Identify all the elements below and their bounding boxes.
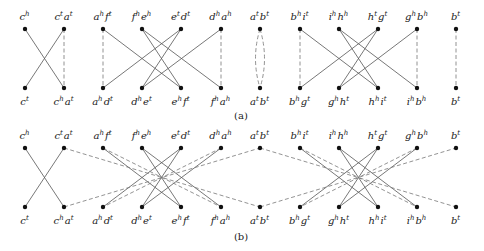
node-top (101, 146, 105, 150)
node-bottom (258, 205, 262, 209)
node-label-bottom: bt (451, 214, 461, 226)
node-top (140, 27, 144, 31)
node-label-top: ht gt (368, 10, 389, 22)
node-bottom (101, 205, 105, 209)
node-label-bottom: bt (451, 95, 461, 107)
node-top (298, 146, 302, 150)
node-label-bottom: ih bh (407, 214, 428, 226)
node-bottom (415, 86, 419, 90)
node-label-bottom: gh ht (328, 95, 350, 107)
node-label-top: dh ah (209, 129, 232, 141)
node-bottom (101, 86, 105, 90)
node-bottom (415, 205, 419, 209)
node-bottom (179, 86, 183, 90)
node-label-bottom: ah dt (92, 95, 114, 107)
node-label-bottom: fh ah (210, 95, 232, 107)
node-label-bottom: ah dt (92, 214, 114, 226)
node-label-bottom: ch at (54, 95, 75, 107)
node-top (219, 27, 223, 31)
node-label-top: gh bh (405, 129, 429, 141)
node-label-top: bh it (291, 10, 310, 22)
node-label-bottom: eh ft (172, 214, 191, 226)
node-bottom (454, 86, 458, 90)
node-label-top: ch (19, 129, 30, 141)
node-top (298, 27, 302, 31)
node-label-top: gh bh (405, 10, 429, 22)
node-label-top: ct at (54, 129, 73, 141)
node-bottom (337, 205, 341, 209)
node-top (101, 27, 105, 31)
node-label-top: bh it (291, 129, 310, 141)
node-top (23, 27, 27, 31)
node-label-bottom: fh ah (210, 214, 232, 226)
node-top (337, 27, 341, 31)
node-top (179, 27, 183, 31)
node-label-bottom: bh gt (289, 95, 311, 107)
node-label-top: dh ah (209, 10, 232, 22)
node-label-top: ht gt (368, 129, 389, 141)
node-label-bottom: ih bh (407, 95, 428, 107)
node-label-top: fh eh (131, 129, 153, 141)
node-bottom (454, 205, 458, 209)
node-bottom (140, 205, 144, 209)
panel-b: ch ct at ah ft fh eh et dt dh ah at bt b… (19, 129, 461, 226)
node-bottom (219, 86, 223, 90)
node-label-top: et dt (171, 129, 191, 141)
caption-b: (b) (234, 231, 248, 242)
node-bottom (376, 205, 380, 209)
curved-dashed-edge (256, 29, 261, 88)
node-label-top: ct at (54, 10, 73, 22)
node-label-top: at bt (250, 10, 270, 22)
node-label-bottom: hh it (369, 214, 388, 226)
node-bottom (140, 86, 144, 90)
node-bottom (23, 86, 27, 90)
edges (25, 148, 456, 207)
curved-dashed-edge (260, 29, 265, 88)
node-bottom (62, 86, 66, 90)
node-label-bottom: ch at (54, 214, 75, 226)
node-top (258, 146, 262, 150)
node-top (140, 146, 144, 150)
node-label-top: ih hh (329, 10, 350, 22)
node-bottom (337, 86, 341, 90)
panel-a: ch ct at ah ft fh eh et dt dh ah at bt b… (19, 10, 461, 107)
node-top (219, 146, 223, 150)
node-bottom (179, 205, 183, 209)
node-label-bottom: ct (20, 95, 29, 107)
node-label-bottom: bh gt (289, 214, 311, 226)
node-label-top: fh eh (131, 10, 153, 22)
node-bottom (62, 205, 66, 209)
node-label-top: ch (19, 10, 30, 22)
node-top (415, 27, 419, 31)
edges (25, 29, 456, 88)
node-label-top: ah ft (93, 129, 112, 141)
node-label-top: bt (451, 10, 461, 22)
node-label-top: at bt (250, 129, 270, 141)
node-label-bottom: gh ht (328, 214, 350, 226)
node-top (376, 27, 380, 31)
node-bottom (376, 86, 380, 90)
node-top (23, 146, 27, 150)
node-label-bottom: hh it (369, 95, 388, 107)
node-top (376, 146, 380, 150)
node-top (62, 146, 66, 150)
node-label-bottom: dh et (131, 214, 153, 226)
node-bottom (298, 205, 302, 209)
node-top (179, 146, 183, 150)
node-top (258, 27, 262, 31)
node-label-bottom: eh ft (172, 95, 191, 107)
node-label-top: bt (451, 129, 461, 141)
node-label-bottom: ct (20, 214, 29, 226)
node-top (454, 146, 458, 150)
node-label-top: ah ft (93, 10, 112, 22)
node-label-bottom: dh et (131, 95, 153, 107)
node-bottom (298, 86, 302, 90)
node-top (415, 146, 419, 150)
node-top (454, 27, 458, 31)
node-top (337, 146, 341, 150)
caption-a: (a) (234, 110, 248, 121)
node-bottom (258, 86, 262, 90)
node-label-bottom: at bt (250, 95, 270, 107)
graph-diagram: ch ct at ah ft fh eh et dt dh ah at bt b… (0, 0, 484, 251)
node-label-bottom: at bt (250, 214, 270, 226)
